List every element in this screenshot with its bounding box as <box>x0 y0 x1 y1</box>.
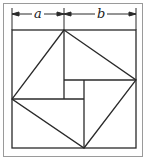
arrow-icon <box>12 12 19 16</box>
dimension-line <box>12 8 136 30</box>
outer-square <box>12 30 136 148</box>
arrow-icon <box>129 12 136 16</box>
figure-drawing <box>0 0 146 162</box>
label-a: a <box>32 7 44 20</box>
arrow-icon <box>64 12 71 16</box>
tilted-square <box>12 30 136 148</box>
label-b: b <box>95 7 107 20</box>
inner-partitions <box>12 30 136 148</box>
